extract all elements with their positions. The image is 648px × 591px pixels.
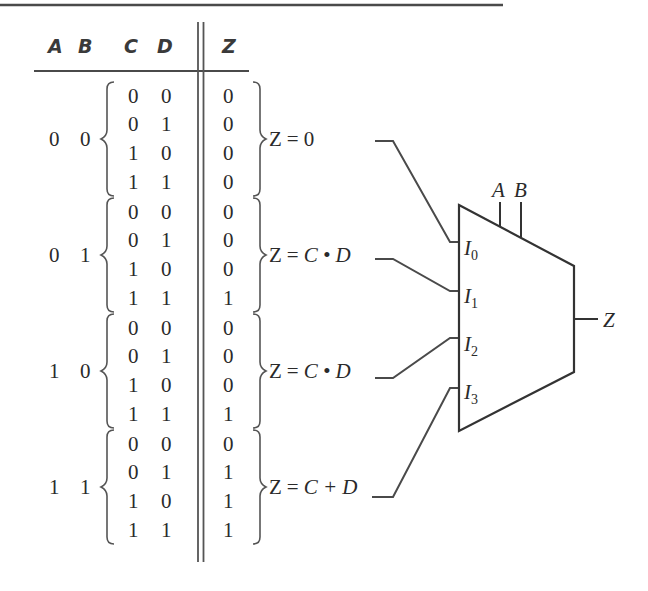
cell-z: 0 xyxy=(223,112,234,136)
cell-c: 1 xyxy=(128,257,139,281)
cell-d: 1 xyxy=(161,112,172,136)
cell-c: 1 xyxy=(128,170,139,194)
ab-value-a: 1 xyxy=(49,359,60,383)
wire-to-i2 xyxy=(375,338,459,378)
cell-c: 1 xyxy=(128,286,139,310)
cell-d: 1 xyxy=(161,460,172,484)
cell-d: 0 xyxy=(161,257,172,281)
ab-value-a: 1 xyxy=(49,475,60,499)
header-z: Z xyxy=(221,35,237,57)
cell-c: 0 xyxy=(128,432,139,456)
ab-value-b: 0 xyxy=(80,127,91,151)
cell-d: 0 xyxy=(161,432,172,456)
group-01: 0 1 0 0 0 0 1 0 1 0 0 1 1 1 Z=C • D xyxy=(49,198,351,312)
svg-text:Z=C • D: Z=C • D xyxy=(269,243,351,267)
ab-value-a: 0 xyxy=(49,243,60,267)
equation: Z=C • D xyxy=(269,243,351,267)
cell-c: 0 xyxy=(128,112,139,136)
header-c: C xyxy=(124,35,138,57)
cell-z: 1 xyxy=(223,402,234,426)
cell-z: 1 xyxy=(223,460,234,484)
cell-d: 1 xyxy=(161,228,172,252)
cell-c: 0 xyxy=(128,200,139,224)
cell-d: 1 xyxy=(161,170,172,194)
cell-c: 1 xyxy=(128,402,139,426)
ab-value-a: 0 xyxy=(49,127,60,151)
cell-z: 0 xyxy=(223,344,234,368)
right-brace xyxy=(253,198,266,312)
wire-to-i0 xyxy=(375,141,459,242)
cell-c: 0 xyxy=(128,460,139,484)
cell-z: 0 xyxy=(223,373,234,397)
left-brace xyxy=(101,82,114,196)
left-brace xyxy=(101,430,114,544)
svg-text:Z=C + D: Z=C + D xyxy=(269,475,358,499)
cell-d: 0 xyxy=(161,373,172,397)
svg-text:Z=C • D: Z=C • D xyxy=(269,359,351,383)
cell-d: 0 xyxy=(161,489,172,513)
header-b: B xyxy=(78,35,92,57)
cell-d: 1 xyxy=(161,286,172,310)
table-header: A B C D Z xyxy=(46,35,237,57)
truth-table-mux-diagram: A B C D Z 0 0 0 0 0 0 1 0 1 0 0 1 1 0 Z=… xyxy=(0,0,648,591)
cell-d: 0 xyxy=(161,316,172,340)
cell-c: 0 xyxy=(128,344,139,368)
select-label-b: B xyxy=(514,178,527,202)
cell-d: 0 xyxy=(161,141,172,165)
ab-value-b: 1 xyxy=(80,243,91,267)
select-label-a: A xyxy=(490,178,505,202)
cell-c: 1 xyxy=(128,141,139,165)
cell-z: 0 xyxy=(223,316,234,340)
cell-z: 0 xyxy=(223,141,234,165)
cell-c: 1 xyxy=(128,373,139,397)
cell-z: 1 xyxy=(223,518,234,542)
cell-c: 0 xyxy=(128,228,139,252)
header-d: D xyxy=(157,35,173,57)
cell-z: 0 xyxy=(223,170,234,194)
equation: Z=C + D xyxy=(269,475,358,499)
cell-z: 0 xyxy=(223,200,234,224)
cell-z: 0 xyxy=(223,84,234,108)
cell-z: 1 xyxy=(223,489,234,513)
cell-c: 1 xyxy=(128,489,139,513)
right-brace xyxy=(253,314,266,428)
cell-d: 1 xyxy=(161,402,172,426)
multiplexer: A B I0 I1 I2 I3 Z xyxy=(459,178,615,431)
cell-d: 1 xyxy=(161,344,172,368)
header-a: A xyxy=(46,35,63,57)
cell-d: 0 xyxy=(161,200,172,224)
left-brace xyxy=(101,198,114,312)
cell-z: 0 xyxy=(223,257,234,281)
equation: Z=0 xyxy=(269,127,314,151)
cell-z: 0 xyxy=(223,228,234,252)
ab-value-b: 1 xyxy=(80,475,91,499)
output-label-z: Z xyxy=(603,308,615,332)
cell-c: 1 xyxy=(128,518,139,542)
cell-z: 0 xyxy=(223,432,234,456)
wire-to-i3 xyxy=(372,388,459,497)
right-brace xyxy=(253,82,266,196)
equation: Z=C • D xyxy=(269,359,351,383)
right-brace xyxy=(253,430,266,544)
cell-d: 0 xyxy=(161,84,172,108)
wire-to-i1 xyxy=(375,259,459,291)
left-brace xyxy=(101,314,114,428)
cell-d: 1 xyxy=(161,518,172,542)
cell-c: 0 xyxy=(128,84,139,108)
group-00: 0 0 0 0 0 0 1 0 1 0 0 1 1 0 Z=0 xyxy=(49,82,314,196)
cell-z: 1 xyxy=(223,286,234,310)
cell-c: 0 xyxy=(128,316,139,340)
svg-text:Z=0: Z=0 xyxy=(269,127,314,151)
ab-value-b: 0 xyxy=(80,359,91,383)
group-10: 1 0 0 0 0 0 1 0 1 0 0 1 1 1 Z=C • D xyxy=(49,314,351,428)
